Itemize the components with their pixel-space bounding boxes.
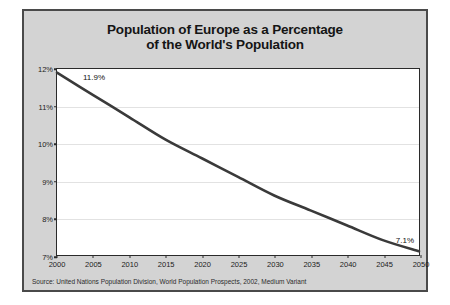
chart-title-line-1: Population of Europe as a Percentage <box>24 22 426 37</box>
series-path <box>57 73 419 252</box>
y-axis-tick-mark <box>54 256 57 258</box>
chart-figure: Population of Europe as a Percentage of … <box>22 9 428 292</box>
x-axis-tick-label: 2050 <box>413 260 430 269</box>
x-axis-tick-label: 2000 <box>49 260 66 269</box>
x-axis-tick-mark <box>348 255 349 258</box>
x-axis-tick-label: 2020 <box>194 260 211 269</box>
y-axis-tick-label: 8% <box>42 215 53 224</box>
x-axis-tick-mark <box>129 255 130 258</box>
source-note: Source: United Nations Population Divisi… <box>32 278 306 285</box>
x-axis-tick-mark <box>384 255 385 258</box>
y-axis-tick-label: 9% <box>42 177 53 186</box>
annotation-start-value: 11.9% <box>83 73 105 82</box>
x-axis-tick-label: 2035 <box>303 260 320 269</box>
x-axis-tick-mark <box>93 255 94 258</box>
x-axis-tick-label: 2015 <box>158 260 175 269</box>
y-axis-tick-label: 12% <box>38 65 53 74</box>
x-axis-tick-mark <box>239 255 240 258</box>
x-axis-tick-mark <box>275 255 276 258</box>
x-axis-tick-label: 2025 <box>231 260 248 269</box>
x-axis-tick-mark <box>166 255 167 258</box>
x-axis-tick-mark <box>421 255 422 258</box>
chart-title: Population of Europe as a Percentage of … <box>24 22 426 52</box>
x-axis-tick-label: 2030 <box>267 260 284 269</box>
x-axis-tick-label: 2005 <box>85 260 102 269</box>
x-axis-tick-mark <box>57 255 58 258</box>
annotation-end-value: 7.1% <box>396 236 414 245</box>
chart-title-line-2: of the World's Population <box>24 37 426 52</box>
plot-area: 7%8%9%10%11%12% 200020052010201520202025… <box>56 68 420 256</box>
x-axis-tick-label: 2010 <box>121 260 138 269</box>
y-axis-tick-label: 11% <box>39 102 53 111</box>
y-axis-tick-label: 7% <box>42 253 53 262</box>
line-series <box>57 69 419 255</box>
x-axis-tick-mark <box>202 255 203 258</box>
y-axis-tick-label: 10% <box>38 140 53 149</box>
x-axis-tick-label: 2040 <box>340 260 357 269</box>
x-axis-tick-mark <box>311 255 312 258</box>
x-axis-tick-label: 2045 <box>376 260 393 269</box>
